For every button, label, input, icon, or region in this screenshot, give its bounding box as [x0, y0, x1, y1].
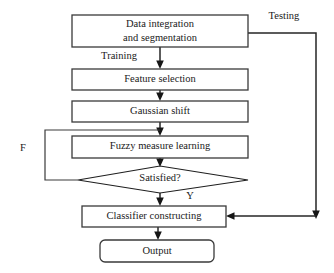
node-data-integration-label-line2: and segmentation: [123, 32, 198, 43]
edge-label-testing: Testing: [269, 10, 301, 21]
edge-testing-path: [248, 33, 316, 213]
edge-label-yes-branch: Y: [186, 190, 194, 201]
node-gaussian-shift[interactable]: Gaussian shift: [72, 101, 248, 122]
edge-classifier-to-output-arrowhead: [154, 232, 162, 241]
node-classifier-constructing[interactable]: Classifier constructing: [82, 206, 226, 227]
node-feature-selection-label: Feature selection: [124, 73, 196, 84]
flowchart-svg: Data integration and segmentation Featur…: [0, 0, 334, 273]
edge-gaussian-to-fuzzy-arrowhead: [156, 128, 164, 137]
edge-label-training: Training: [101, 50, 138, 61]
node-feature-selection[interactable]: Feature selection: [72, 69, 248, 90]
edge-label-false-branch: F: [20, 142, 26, 153]
edge-testing-arrowhead-left: [226, 212, 235, 220]
node-fuzzy-measure-learning-label: Fuzzy measure learning: [110, 140, 211, 151]
node-data-integration-label-line1: Data integration: [126, 18, 195, 29]
node-fuzzy-measure-learning[interactable]: Fuzzy measure learning: [72, 136, 248, 158]
edge-feature-to-gaussian-arrowhead: [156, 93, 164, 102]
edge-testing-arrowhead-down: [312, 211, 320, 220]
edge-training-arrowhead: [156, 61, 164, 70]
edge-yes-arrowhead: [156, 198, 164, 207]
node-data-integration[interactable]: Data integration and segmentation: [72, 15, 248, 47]
node-gaussian-shift-label: Gaussian shift: [130, 105, 190, 116]
flowchart-canvas: Data integration and segmentation Featur…: [0, 0, 334, 273]
node-output-label: Output: [142, 245, 171, 256]
node-classifier-constructing-label: Classifier constructing: [107, 210, 203, 221]
node-satisfied-decision[interactable]: Satisfied?: [78, 166, 248, 193]
node-output[interactable]: Output: [100, 240, 214, 262]
node-satisfied-label: Satisfied?: [139, 172, 181, 183]
